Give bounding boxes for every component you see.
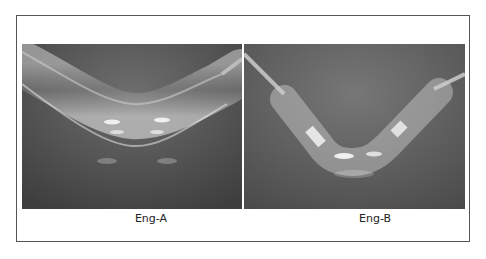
caption-eng-b: Eng-B bbox=[325, 212, 425, 225]
caption-eng-a: Eng-A bbox=[101, 212, 201, 225]
photo-eng-a bbox=[22, 44, 242, 209]
photo-eng-b bbox=[244, 44, 465, 209]
